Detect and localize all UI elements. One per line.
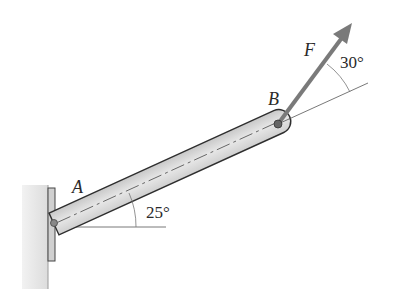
- bar-ab: [49, 106, 295, 235]
- wall: [22, 185, 48, 289]
- pin-b: [274, 120, 282, 128]
- diagram-canvas: A B F 25° 30°: [0, 0, 397, 304]
- force-arrow-f: [278, 23, 352, 124]
- label-angle-25: 25°: [146, 203, 170, 222]
- label-a: A: [71, 177, 84, 197]
- label-f: F: [303, 40, 316, 60]
- label-angle-30: 30°: [340, 53, 364, 72]
- pin-a: [51, 220, 58, 227]
- label-b: B: [268, 89, 279, 109]
